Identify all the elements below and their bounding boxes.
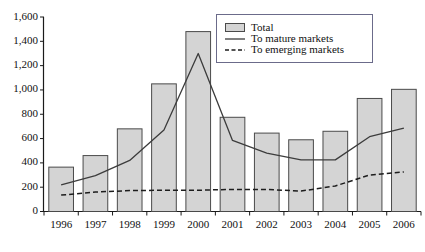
x-axis-tick-marks [44, 212, 421, 216]
x-axis-tick-labels: 1996199719981999200020012002200320042005… [50, 218, 415, 230]
bar-2001 [220, 117, 245, 211]
y-tick-label: 1,400 [13, 34, 38, 46]
bar-1996 [49, 167, 74, 211]
legend-swatch-total [226, 24, 245, 32]
bar-1999 [152, 84, 177, 212]
bar-2003 [289, 140, 314, 212]
x-tick-label-2005: 2005 [359, 218, 382, 230]
y-tick-label: 400 [22, 155, 39, 167]
x-tick-label-1999: 1999 [153, 218, 176, 230]
chart-legend: Total To mature markets To emerging mark… [217, 15, 373, 63]
combination-bar-line-chart: 02004006008001,0001,2001,4001,600 199619… [0, 0, 425, 252]
y-tick-label: 1,600 [13, 10, 38, 22]
bar-2005 [357, 98, 382, 211]
bar-1998 [117, 129, 142, 212]
y-tick-label: 200 [22, 180, 39, 192]
y-axis-tick-labels: 02004006008001,0001,2001,4001,600 [13, 10, 38, 217]
y-tick-label: 1,000 [13, 82, 38, 94]
x-tick-label-2004: 2004 [324, 218, 347, 230]
bar-2000 [186, 32, 211, 212]
y-tick-label: 800 [22, 107, 39, 119]
y-tick-label: 1,200 [13, 58, 38, 70]
y-tick-label: 600 [22, 131, 39, 143]
y-tick-label: 0 [33, 204, 39, 216]
x-tick-label-2003: 2003 [290, 218, 313, 230]
x-tick-label-1996: 1996 [50, 218, 73, 230]
x-tick-label-1998: 1998 [119, 218, 142, 230]
x-tick-label-2001: 2001 [222, 218, 244, 230]
bar-1997 [83, 156, 108, 212]
x-tick-label-2006: 2006 [393, 218, 416, 230]
x-tick-label-1997: 1997 [84, 218, 107, 230]
bar-2006 [392, 89, 417, 211]
bar-2002 [254, 133, 279, 211]
bar-2004 [323, 131, 348, 211]
legend-label-to-emerging-markets: To emerging markets [251, 43, 344, 55]
x-tick-label-2000: 2000 [187, 218, 210, 230]
x-tick-label-2002: 2002 [256, 218, 278, 230]
chart-container: 02004006008001,0001,2001,4001,600 199619… [0, 0, 425, 252]
